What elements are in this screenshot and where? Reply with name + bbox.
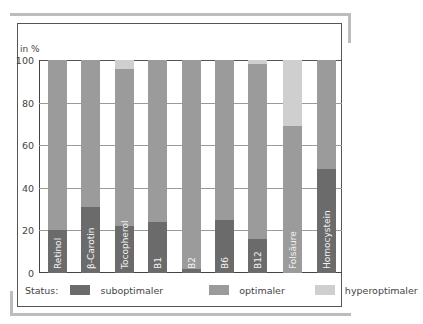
bar-segment-optimaler xyxy=(317,60,336,169)
legend-title: Status: xyxy=(25,285,58,296)
bar-segment-optimaler xyxy=(248,64,267,239)
legend-label: suboptimaler xyxy=(100,285,163,296)
bar-segment-optimaler xyxy=(148,60,167,222)
bar-segment-optimaler xyxy=(182,60,201,269)
bar: B2 xyxy=(182,60,201,273)
bar-label: B2 xyxy=(187,257,197,269)
y-tick-label: 40 xyxy=(22,182,34,193)
bar-label: B1 xyxy=(153,257,163,269)
plot-area: 020406080100Retinolβ-CarotinTocopherolB1… xyxy=(39,60,342,273)
bar-label: B6 xyxy=(220,257,230,269)
legend-swatch-optimal xyxy=(209,285,229,295)
bar-segment-optimaler xyxy=(48,60,67,230)
y-tick-label: 100 xyxy=(16,55,34,66)
bar-segment-suboptimaler xyxy=(182,269,201,273)
bar: B6 xyxy=(215,60,234,273)
bar-segment-optimaler xyxy=(215,60,234,220)
decorative-left-line xyxy=(10,291,13,316)
bar-segment-optimaler xyxy=(115,69,134,227)
bar: B12 xyxy=(248,60,267,273)
y-tick-label: 60 xyxy=(22,140,34,151)
bar: Folsäure xyxy=(283,60,302,273)
y-tick-label: 80 xyxy=(22,97,34,108)
bar-segment-hyperoptimaler xyxy=(115,60,134,69)
bar-label: Retinol xyxy=(53,238,63,269)
y-axis xyxy=(39,60,40,273)
bar-label: Tocopherol xyxy=(120,221,130,269)
legend-item-hyperoptimal: hyperoptimaler xyxy=(315,285,418,296)
legend-label: optimaler xyxy=(239,285,285,296)
legend-label: hyperoptimaler xyxy=(345,285,418,296)
bar: Retinol xyxy=(48,60,67,273)
legend: Status: suboptimaler optimaler hyperopti… xyxy=(25,283,423,297)
y-axis-unit-label: in % xyxy=(20,44,40,54)
decorative-top-line xyxy=(10,13,351,16)
bar-label: B12 xyxy=(253,251,263,269)
bar-segment-hyperoptimaler xyxy=(283,60,302,126)
bar-segment-optimaler xyxy=(81,60,100,207)
decorative-right-line xyxy=(348,13,351,43)
bar-label: β-Carotin xyxy=(86,227,96,269)
y-tick-label: 0 xyxy=(28,268,34,279)
legend-swatch-hyperoptimal xyxy=(315,285,335,295)
y-tick-label: 20 xyxy=(22,225,34,236)
legend-swatch-suboptimal xyxy=(70,285,90,295)
legend-item-optimal: optimaler xyxy=(209,285,285,296)
bar: β-Carotin xyxy=(81,60,100,273)
bar: B1 xyxy=(148,60,167,273)
decorative-bottom-line xyxy=(10,313,351,316)
bar: Homocystein xyxy=(317,60,336,273)
legend-item-suboptimal: suboptimaler xyxy=(70,285,163,296)
bar-label: Folsäure xyxy=(288,231,298,269)
bar-label: Homocystein xyxy=(322,210,332,269)
bar: Tocopherol xyxy=(115,60,134,273)
